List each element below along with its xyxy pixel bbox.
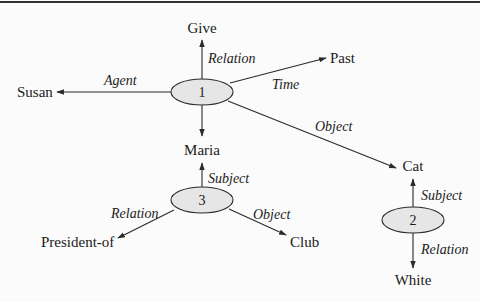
edge-label-relation-2: Relation [420,242,468,257]
semantic-network-diagram: 1 3 2 Give Susan Past Maria Cat Presiden… [0,0,480,302]
node-1-label: 1 [199,85,206,100]
node-2-label: 2 [410,213,417,228]
concept-susan: Susan [17,84,53,100]
concept-cat: Cat [403,158,425,174]
edge-label-relation-1: Relation [207,51,255,66]
node-3-label: 3 [199,193,206,208]
node-2: 2 [382,207,444,233]
node-3: 3 [171,187,233,213]
node-1: 1 [171,79,233,105]
edge-label-object-3: Object [253,207,291,222]
edge-label-time: Time [272,77,299,92]
edge-label-object-1: Object [315,119,353,134]
edge-n1-cat [228,101,396,168]
concept-club: Club [290,234,319,250]
concept-give: Give [187,20,217,36]
concept-white: White [395,272,432,288]
edge-label-relation-3: Relation [110,206,158,221]
edge-label-subject-3: Subject [208,171,250,186]
concept-past: Past [330,50,356,66]
concept-president-of: President-of [41,234,114,250]
edge-label-agent: Agent [103,73,138,88]
edge-label-subject-2: Subject [421,188,463,203]
concept-maria: Maria [184,142,220,158]
